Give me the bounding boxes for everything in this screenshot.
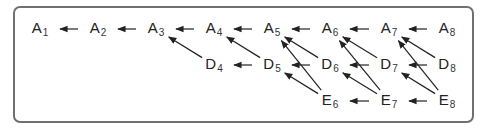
node-subscript: 2 xyxy=(101,27,107,38)
node-e6: E6 xyxy=(322,92,339,110)
node-a8: A8 xyxy=(439,20,456,38)
node-letter: E xyxy=(322,91,332,108)
arrow-d6-to-a5 xyxy=(285,37,318,58)
node-letter: A xyxy=(264,19,274,36)
node-d5: D5 xyxy=(263,56,280,74)
node-letter: D xyxy=(263,55,274,72)
node-d4: D4 xyxy=(205,56,222,74)
node-e8: E8 xyxy=(439,92,456,110)
node-subscript: 4 xyxy=(217,63,223,74)
node-d7: D7 xyxy=(380,56,397,74)
node-a5: A5 xyxy=(264,20,281,38)
node-a1: A1 xyxy=(32,20,49,38)
node-letter: D xyxy=(205,55,216,72)
node-letter: D xyxy=(321,55,332,72)
arrow-e6-to-d5 xyxy=(285,73,318,94)
node-subscript: 7 xyxy=(392,63,398,74)
node-a3: A3 xyxy=(148,20,165,38)
node-letter: D xyxy=(380,55,391,72)
node-subscript: 1 xyxy=(43,27,49,38)
edges-layer xyxy=(0,0,490,129)
arrow-d7-to-a6 xyxy=(343,37,377,58)
node-subscript: 8 xyxy=(450,27,456,38)
node-a4: A4 xyxy=(206,20,223,38)
node-letter: A xyxy=(439,19,449,36)
node-subscript: 3 xyxy=(159,27,165,38)
node-letter: A xyxy=(32,19,42,36)
node-subscript: 6 xyxy=(333,27,339,38)
arrow-e8-to-d7 xyxy=(402,73,435,94)
node-subscript: 5 xyxy=(275,63,281,74)
node-letter: A xyxy=(90,19,100,36)
node-subscript: 6 xyxy=(333,63,339,74)
node-e7: E7 xyxy=(381,92,398,110)
node-d6: D6 xyxy=(321,56,338,74)
node-letter: D xyxy=(438,55,449,72)
node-subscript: 8 xyxy=(450,99,456,110)
arrow-e7-to-d6 xyxy=(343,73,377,94)
arrow-d4-to-a3 xyxy=(169,37,202,58)
node-subscript: 7 xyxy=(392,99,398,110)
node-d8: D8 xyxy=(438,56,455,74)
node-letter: E xyxy=(381,91,391,108)
node-subscript: 7 xyxy=(392,27,398,38)
node-letter: A xyxy=(381,19,391,36)
node-letter: A xyxy=(148,19,158,36)
arrow-d5-to-a4 xyxy=(227,37,260,58)
node-letter: A xyxy=(206,19,216,36)
node-a7: A7 xyxy=(381,20,398,38)
node-subscript: 4 xyxy=(217,27,223,38)
node-subscript: 6 xyxy=(333,99,339,110)
node-a2: A2 xyxy=(90,20,107,38)
node-letter: E xyxy=(439,91,449,108)
node-a6: A6 xyxy=(322,20,339,38)
node-subscript: 8 xyxy=(450,63,456,74)
node-letter: A xyxy=(322,19,332,36)
arrow-d8-to-a7 xyxy=(402,37,435,58)
node-subscript: 5 xyxy=(275,27,281,38)
